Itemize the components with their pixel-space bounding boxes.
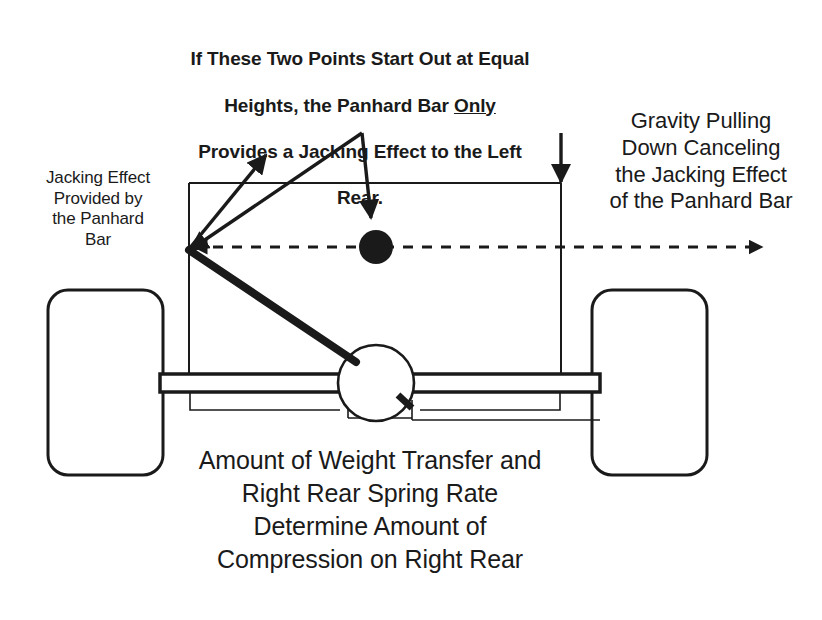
gravity-annotation-note: Gravity Pulling Down Canceling the Jacki… [590,108,812,215]
top-note-line2-text: Heights, the Panhard Bar [224,95,454,116]
roll-center-dot [359,230,393,264]
top-note-line2: Heights, the Panhard Bar Only [155,94,565,117]
top-note-line4: Rear. [155,186,565,209]
top-note-line3: Provides a Jacking Effect to the Left [155,140,565,163]
top-annotation-note: If These Two Points Start Out at Equal H… [155,24,565,233]
weight-transfer-caption: Amount of Weight Transfer and Right Rear… [140,444,600,576]
right-rear-wheel [592,290,707,475]
top-note-line1: If These Two Points Start Out at Equal [155,47,565,70]
panhard-bar [189,250,356,362]
diagram-canvas: If These Two Points Start Out at Equal H… [0,0,822,620]
jacking-effect-annotation-note: Jacking Effect Provided by the Panhard B… [18,168,178,251]
top-note-emphasis-only: Only [454,95,496,116]
